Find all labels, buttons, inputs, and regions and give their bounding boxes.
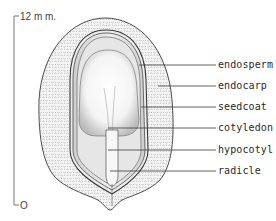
cotyledon <box>79 50 139 136</box>
hypocotyl-radicle <box>106 130 118 186</box>
scale-bar <box>14 16 19 205</box>
label-radicle: radicle <box>218 165 261 176</box>
label-seedcoat: seedcoat <box>218 101 267 112</box>
scale-top-label: 12 m m. <box>20 11 56 22</box>
seed-diagram: 12 m m. O endosperm endocarp seedcoat co… <box>0 0 276 221</box>
scale-bottom-label: O <box>20 200 28 211</box>
label-hypocotyl: hypocotyl <box>218 144 273 155</box>
label-endocarp: endocarp <box>218 80 267 91</box>
label-endosperm: endosperm <box>218 59 273 70</box>
label-cotyledon: cotyledon <box>218 122 273 133</box>
